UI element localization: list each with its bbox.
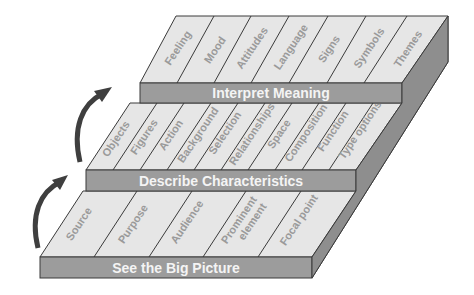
staircase-diagram: See the Big Picture Source Purpose Audie… [0,0,474,295]
tier-describe-characteristics: Describe Characteristics Objects Figures… [86,98,402,191]
tier-label: See the Big Picture [112,260,240,276]
tier-label: Interpret Meaning [212,85,329,101]
tier-label: Describe Characteristics [139,173,303,189]
tier-see-big-picture: See the Big Picture Source Purpose Audie… [40,191,356,278]
